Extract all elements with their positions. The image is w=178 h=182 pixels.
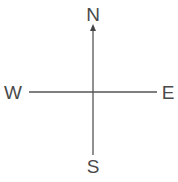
label-east: E — [162, 82, 175, 103]
label-north: N — [86, 4, 100, 25]
north-arrow-icon — [90, 24, 96, 31]
compass-diagram: N W E S — [0, 0, 178, 182]
label-west: W — [4, 82, 22, 103]
label-south: S — [87, 156, 100, 177]
